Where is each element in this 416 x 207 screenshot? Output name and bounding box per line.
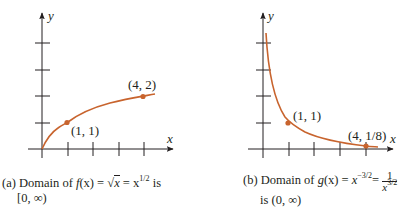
caption-a-suffix: is	[150, 176, 161, 190]
fraction-denominator: x3/2	[382, 182, 397, 193]
panel-a-y-label: y	[46, 8, 54, 23]
panel-a-x-label: x	[166, 131, 173, 146]
panel-b-point-4-eighth	[363, 143, 368, 148]
panel-a-caption: (a) Domain of f(x) = √x = x1/2 is [0, ∞)	[2, 176, 161, 206]
panel-a-point-4-2	[140, 94, 145, 99]
caption-a-arg: (x) =	[79, 176, 107, 190]
panel-a-point-1-label: (1, 1)	[71, 123, 99, 138]
panel-b-caption: (b) Domain of g(x) = x−3/2= 1x3/2 is (0,…	[243, 170, 397, 207]
caption-a-prefix: (a) Domain of	[2, 176, 76, 190]
caption-a-exp: 1/2	[139, 174, 149, 183]
panel-a-point-1-1	[64, 120, 69, 125]
panel-a-chart: y x (1, 1) (4, 2)	[28, 8, 173, 158]
caption-b-arg: (x) =	[324, 173, 352, 187]
caption-b-eq: =	[372, 173, 382, 187]
panel-a-point-2-label: (4, 2)	[128, 77, 156, 92]
panel-b-chart: y x (1, 1) (4, 1/8)	[248, 8, 396, 158]
caption-b-domain: is (0, ∞)	[243, 193, 301, 207]
panel-b-y-label: y	[266, 8, 274, 23]
caption-a-eq: = x	[120, 176, 140, 190]
panel-b-point-1-label: (1, 1)	[293, 108, 321, 123]
caption-b-fraction: 1x3/2	[382, 170, 397, 193]
panel-b-point-1-1	[285, 120, 290, 125]
panel-b-point-2-label: (4, 1/8)	[348, 128, 386, 143]
caption-b-prefix: (b) Domain of	[243, 173, 318, 187]
caption-b-exp: −3/2	[357, 171, 372, 180]
panel-a-curve	[42, 94, 155, 149]
caption-a-domain: [0, ∞)	[2, 191, 47, 205]
fraction-den-exp: 3/2	[387, 178, 397, 187]
panel-b-x-label: x	[389, 131, 396, 146]
